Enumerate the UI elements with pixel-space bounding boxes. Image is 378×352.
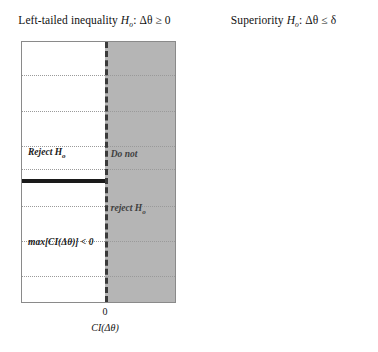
- figure-container: Left-tailed inequality Ho: Δθ ≥ 0 Reject…: [0, 0, 378, 352]
- panel-title-right-symbol: H: [287, 14, 295, 26]
- panel-superiority: Superiority Ho: Δθ ≤ δ Do not reject Ho …: [189, 0, 378, 352]
- reject-null-label-left-sub: o: [62, 152, 66, 160]
- gridline-h: [22, 75, 175, 76]
- panel-title-left-statement: : Δθ ≥ 0: [133, 14, 171, 26]
- do-not-label-left: Do not: [111, 149, 138, 159]
- reject-null-shaded-label-left: reject Ho: [111, 203, 146, 216]
- confidence-interval-bar-left: [22, 179, 105, 183]
- plot-area-left: Reject Ho Do not reject Ho max[CI(Δθ)] <…: [21, 41, 176, 303]
- panel-title-left-prefix: Left-tailed inequality: [18, 14, 118, 26]
- gridline-h: [22, 111, 175, 112]
- do-not-label-left-text: Do not: [111, 149, 138, 159]
- panel-title-right: Superiority Ho: Δθ ≤ δ: [189, 14, 378, 29]
- xtick-zero-left: 0: [85, 306, 125, 317]
- panel-title-left-symbol: H: [121, 14, 129, 26]
- xaxis-label-left: CI(Δθ): [65, 322, 145, 333]
- panel-left-tailed-inequality: Left-tailed inequality Ho: Δθ ≥ 0 Reject…: [0, 0, 189, 352]
- null-boundary-line-left: [105, 42, 108, 302]
- panel-title-left: Left-tailed inequality Ho: Δθ ≥ 0: [0, 14, 189, 29]
- gridline-h: [22, 169, 175, 170]
- panel-title-right-statement: : Δθ ≤ δ: [299, 14, 336, 26]
- reject-null-label-left-text: Reject H: [28, 147, 62, 157]
- reject-null-label-left: Reject Ho: [28, 147, 66, 160]
- panel-title-right-prefix: Superiority: [231, 14, 284, 26]
- gridline-h: [22, 276, 175, 277]
- reject-null-shaded-label-left-sub: o: [142, 208, 146, 216]
- shaded-do-not-reject-region-left: [105, 42, 175, 302]
- ci-condition-formula-left: max[CI(Δθ)] < 0: [28, 237, 93, 247]
- gridline-h: [22, 206, 175, 207]
- reject-null-shaded-label-left-text: reject H: [111, 203, 142, 213]
